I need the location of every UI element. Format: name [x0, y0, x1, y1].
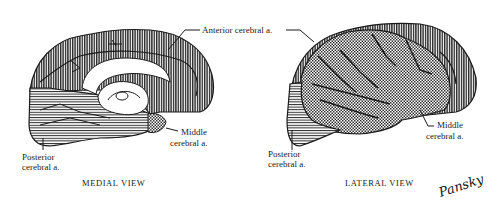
label-medial-posterior-cerebral-line1: Posterior: [22, 152, 55, 162]
label-lateral-middle-cerebral-line1: Middle: [437, 120, 463, 130]
caption-medial-view: MEDIAL VIEW: [82, 178, 146, 188]
label-medial-middle-cerebral-line1: Middle: [181, 127, 207, 137]
label-lateral-posterior-cerebral-line1: Posterior: [268, 149, 301, 159]
label-lateral-middle-cerebral-line2: cerebral a.: [426, 131, 463, 141]
caption-lateral-view: LATERAL VIEW: [345, 178, 414, 188]
medial-middle-territory: [148, 113, 166, 132]
label-medial-posterior-cerebral-line2: cerebral a.: [22, 162, 59, 172]
mammillary-body: [116, 92, 128, 100]
label-medial-middle-cerebral-line2: cerebral a.: [170, 138, 207, 148]
label-anterior-cerebral-artery: Anterior cerebral a.: [202, 25, 272, 35]
label-lateral-posterior-cerebral-line2: cerebral a.: [268, 159, 305, 169]
